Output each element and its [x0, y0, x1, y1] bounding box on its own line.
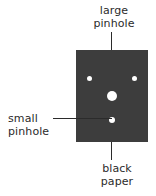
label-black-paper-line2: paper: [94, 175, 140, 188]
label-black-paper: black paper: [94, 162, 140, 188]
leader-line-small-pinhole: [53, 118, 112, 119]
leader-line-black-paper: [111, 142, 112, 160]
label-black-paper-line1: black: [94, 162, 140, 175]
label-small-pinhole-line1: small: [8, 112, 54, 125]
small-pinhole-upper-right: [132, 76, 137, 81]
label-large-pinhole-line2: pinhole: [86, 17, 142, 30]
pinhole-diagram: large pinhole small pinhole black paper: [0, 0, 156, 196]
label-large-pinhole-line1: large: [86, 4, 142, 17]
label-small-pinhole: small pinhole: [8, 112, 54, 138]
black-paper-rectangle: [76, 50, 148, 142]
large-pinhole-center: [107, 91, 117, 101]
label-small-pinhole-line2: pinhole: [8, 125, 54, 138]
label-large-pinhole: large pinhole: [86, 4, 142, 30]
small-pinhole-upper-left: [87, 76, 92, 81]
